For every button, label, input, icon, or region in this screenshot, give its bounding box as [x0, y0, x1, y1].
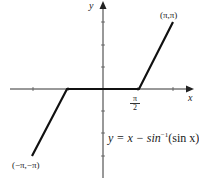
point-label-bottom: (−π,−π): [12, 160, 39, 170]
point-label-top: (π,π): [160, 10, 177, 20]
equation-label: y = x − sin−1(sin x): [108, 131, 199, 146]
equation-prefix: y = x − sin: [108, 131, 161, 145]
y-axis-label: y: [89, 0, 93, 11]
y-axis-arrow-icon: [100, 1, 107, 9]
equation-suffix: (sin x): [168, 131, 199, 145]
tick-denominator: 2: [130, 104, 140, 112]
graph-figure: y x (π,π) (−π,−π) π 2 y = x − sin−1(sin …: [0, 0, 199, 183]
plot-canvas: [0, 0, 199, 183]
tick-label-pi-over-2: π 2: [130, 95, 140, 112]
x-axis-label: x: [188, 92, 192, 103]
